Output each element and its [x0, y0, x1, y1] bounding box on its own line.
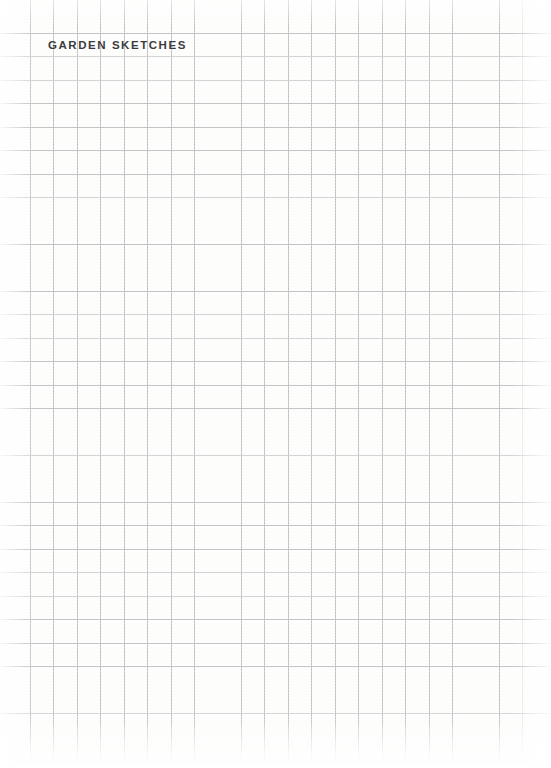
- sketch-writing-area[interactable]: [30, 56, 524, 733]
- grid-paper-page: GARDEN SKETCHES: [0, 0, 551, 768]
- page-title-block: GARDEN SKETCHES: [48, 36, 187, 55]
- page-title: GARDEN SKETCHES: [48, 40, 187, 52]
